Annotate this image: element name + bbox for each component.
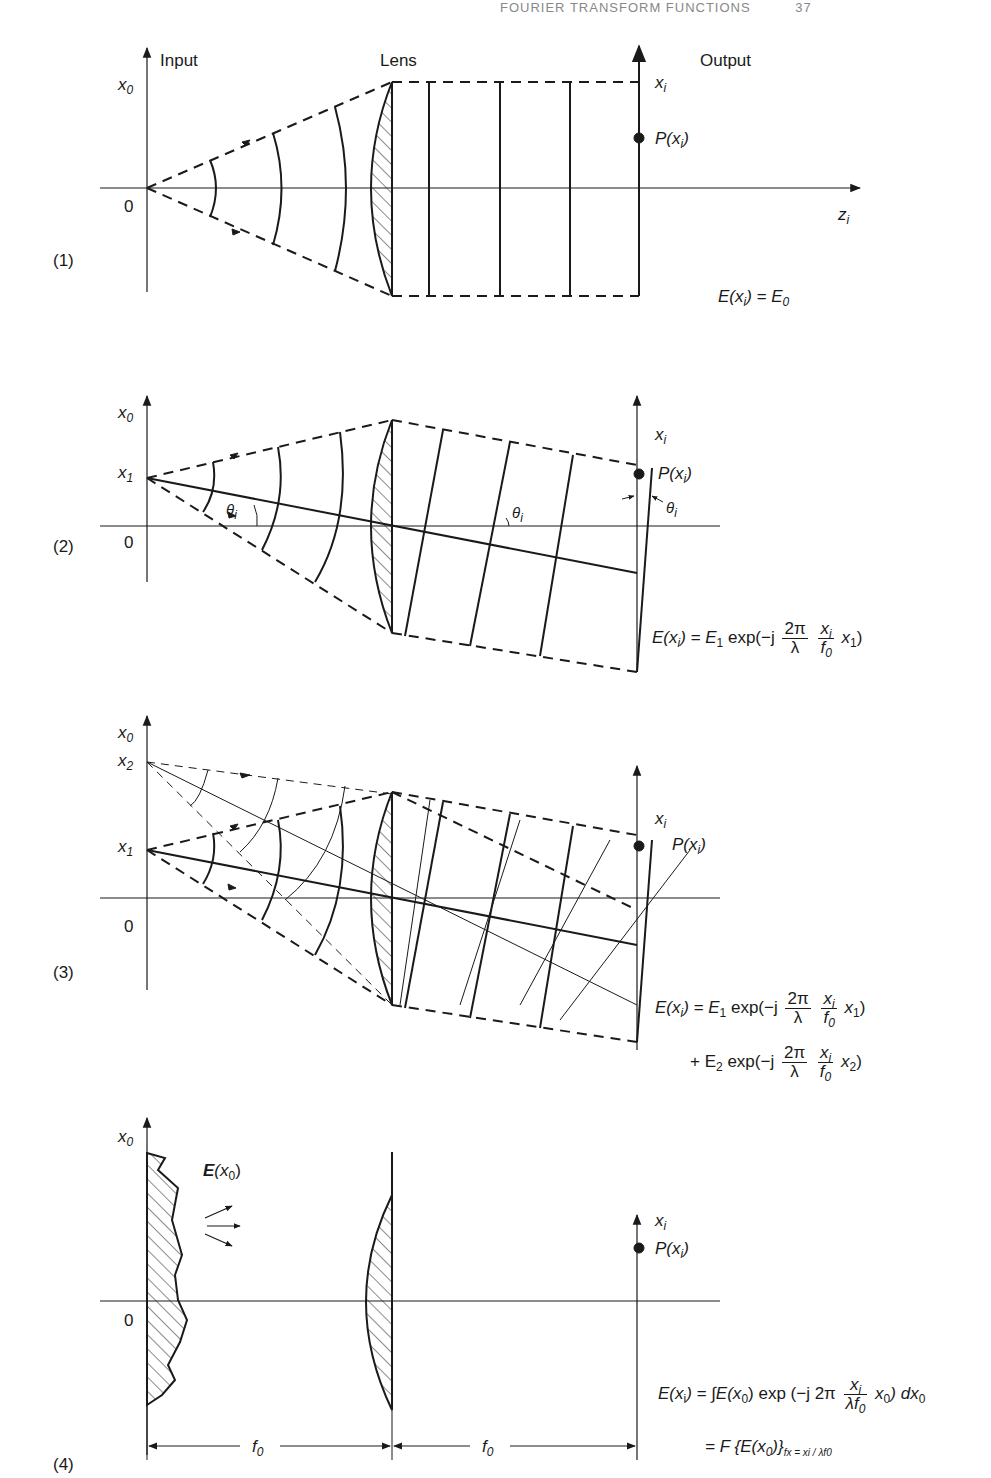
point-p-label: P(xi) <box>655 130 689 147</box>
equation-4-line-1: E(xi) = ∫E(x0) exp (−j 2π xiλf0 x0) dx0 <box>658 1376 925 1413</box>
panel-4-label: (4) <box>53 1456 74 1473</box>
equation-3-line-2: + E2 exp(−j 2πλ xif0 x2) <box>690 1044 862 1081</box>
lens-label: Lens <box>380 52 417 69</box>
source-x1-label: x1 <box>118 464 133 481</box>
axis-xi-label: xi <box>655 810 666 827</box>
point-p-label: P(xi) <box>672 836 706 853</box>
equation-3-line-1: E(xi) = E1 exp(−j 2πλ xif0 x1) <box>655 990 865 1027</box>
origin-label: 0 <box>124 198 133 215</box>
theta-label: θi <box>226 502 237 517</box>
axis-zi-label: zi <box>838 206 849 223</box>
axis-xi-label: xi <box>655 426 666 443</box>
panel-4 <box>100 1118 720 1460</box>
input-label: Input <box>160 52 198 69</box>
panel-3-label: (3) <box>53 964 74 981</box>
field-e-x0-label: E(x0) <box>203 1162 241 1179</box>
equation-1: E(xi) = E0 <box>718 288 789 305</box>
panel-1 <box>100 46 860 296</box>
source-x2-label: x2 <box>118 752 133 769</box>
source-x1-label: x1 <box>118 838 133 855</box>
axis-x0-label: x0 <box>118 1128 133 1145</box>
panel-1-label: (1) <box>53 252 74 269</box>
origin-label: 0 <box>124 918 133 935</box>
equation-2: E(xi) = E1 exp(−j 2πλ xif0 x1) <box>652 620 862 657</box>
point-p-label: P(xi) <box>658 465 692 482</box>
panel-3 <box>100 716 720 1050</box>
theta-label: θi <box>666 500 677 515</box>
output-label: Output <box>700 52 751 69</box>
origin-label: 0 <box>124 534 133 551</box>
focal-length-label: f0 <box>252 1438 263 1455</box>
panel-2-label: (2) <box>53 538 74 555</box>
point-p-label: P(xi) <box>655 1240 689 1257</box>
axis-x0-label: x0 <box>118 724 133 741</box>
axis-x0-label: x0 <box>118 76 133 93</box>
panel-2 <box>100 396 720 672</box>
equation-4-line-2: = F {E(x0)}fx = xi / λf0 <box>705 1438 832 1455</box>
axis-xi-label: xi <box>655 74 666 91</box>
axis-xi-label: xi <box>655 1212 666 1229</box>
origin-label: 0 <box>124 1312 133 1329</box>
focal-length-label: f0 <box>482 1438 493 1455</box>
theta-label: θi <box>512 505 523 520</box>
axis-x0-label: x0 <box>118 404 133 421</box>
